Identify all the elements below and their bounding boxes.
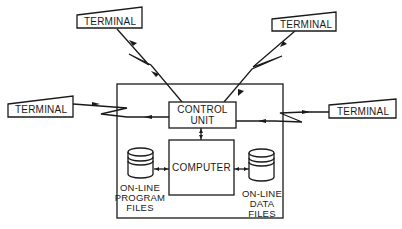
link-computer-data xyxy=(234,167,249,171)
link-left xyxy=(73,102,169,119)
computer: COMPUTER xyxy=(169,140,234,195)
program-files-disk xyxy=(128,148,153,178)
link-program-computer xyxy=(154,167,169,171)
terminal-left-label: TERMINAL xyxy=(15,104,67,115)
terminal-top-left: TERMINAL xyxy=(77,7,142,28)
link-top-right xyxy=(224,31,295,102)
terminal-right: TERMINAL xyxy=(329,99,396,118)
data-files-label-line3: FILES xyxy=(248,208,275,219)
control-unit-label-line1: CONTROL xyxy=(177,104,228,115)
program-files-label-line3: FILES xyxy=(126,202,153,213)
data-files-disk xyxy=(249,149,274,181)
link-control-computer xyxy=(199,128,203,140)
terminal-top-right: TERMINAL xyxy=(272,12,336,31)
computer-label: COMPUTER xyxy=(172,162,231,173)
link-top-left xyxy=(117,29,182,102)
terminal-left: TERMINAL xyxy=(8,96,73,117)
control-unit-label-line2: UNIT xyxy=(190,115,214,126)
terminal-right-label: TERMINAL xyxy=(337,106,389,117)
terminal-top-right-label: TERMINAL xyxy=(280,19,332,30)
online-system-diagram: TERMINAL TERMINAL TERMINAL TERMINAL CONT… xyxy=(0,0,402,229)
control-unit: CONTROL UNIT xyxy=(169,102,236,128)
terminal-top-left-label: TERMINAL xyxy=(84,16,136,27)
